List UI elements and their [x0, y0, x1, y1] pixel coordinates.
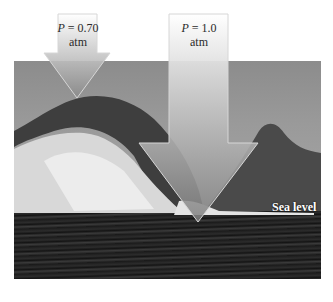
pressure-value: 1.0: [202, 21, 217, 35]
p-symbol: P: [57, 21, 64, 35]
pressure-value: 0.70: [78, 21, 99, 35]
pressure-unit: atm: [170, 35, 228, 49]
pressure-unit: atm: [50, 35, 106, 49]
p-symbol: P: [181, 21, 188, 35]
equals-sign: =: [189, 21, 202, 35]
pressure-label-sea-level: P = 1.0 atm: [170, 21, 228, 49]
sea-level-label: Sea level: [272, 200, 316, 215]
equals-sign: =: [65, 21, 78, 35]
pressure-label-altitude: P = 0.70 atm: [50, 21, 106, 49]
